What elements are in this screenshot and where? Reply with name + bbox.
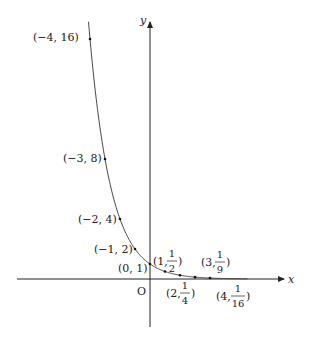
data-point [194, 276, 197, 279]
point-label-neg4: (−4, 16) [33, 31, 79, 44]
svg-text:1: 1 [235, 283, 241, 294]
data-point [104, 158, 107, 161]
data-point [119, 218, 122, 221]
point-label-4: (4, 1 16 ) [216, 283, 250, 309]
svg-text:(3,: (3, [201, 256, 216, 269]
svg-text:(1,: (1, [153, 255, 168, 268]
svg-text:2: 2 [169, 263, 175, 274]
point-label-1: (1, 1 2 ) [153, 248, 182, 274]
svg-text:(4,: (4, [216, 290, 231, 303]
point-label-neg1: (−1, 2) [94, 243, 133, 256]
svg-text:4: 4 [182, 295, 188, 306]
point-label-2: (2, 1 4 ) [166, 280, 195, 306]
svg-text:1: 1 [217, 249, 223, 260]
data-point [149, 263, 152, 266]
data-point [209, 277, 212, 280]
x-axis-label: x [288, 273, 295, 286]
data-point [179, 274, 182, 277]
exponential-curve [89, 22, 248, 279]
svg-text:1: 1 [182, 280, 188, 291]
data-point [134, 248, 137, 251]
svg-text:(2,: (2, [166, 287, 181, 300]
point-label-neg3: (−3, 8) [63, 152, 102, 165]
exponential-graph-figure: x y O (−4, 16) (−3, 8) (−2, 4) (−1, 2) (… [0, 0, 310, 341]
point-label-neg2: (−2, 4) [78, 213, 117, 226]
svg-text:1: 1 [169, 248, 175, 259]
svg-text:9: 9 [217, 264, 223, 275]
graph-canvas: x y O (−4, 16) (−3, 8) (−2, 4) (−1, 2) (… [0, 0, 310, 341]
data-point [164, 270, 167, 273]
svg-text:): ) [191, 287, 195, 300]
svg-text:16: 16 [232, 298, 245, 309]
svg-text:): ) [226, 256, 230, 269]
svg-text:): ) [246, 290, 250, 303]
svg-text:): ) [178, 255, 182, 268]
point-label-3: (3, 1 9 ) [201, 249, 230, 275]
y-axis-label: y [139, 14, 147, 27]
origin-label: O [137, 285, 146, 298]
point-label-0: (0, 1) [118, 262, 148, 275]
data-point [89, 38, 92, 41]
